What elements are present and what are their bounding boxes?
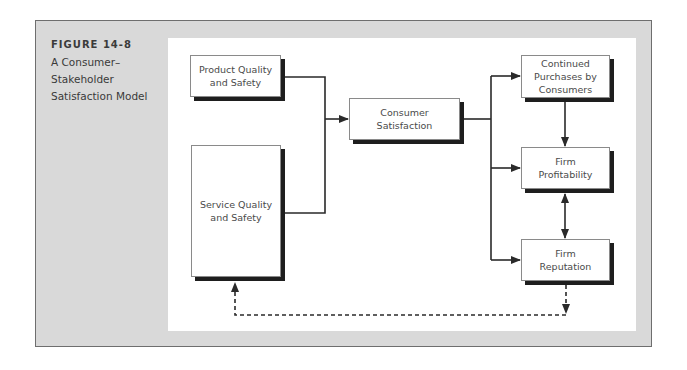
node-label: Service Quality and Safety	[200, 198, 272, 224]
figure-title-line: Satisfaction Model	[51, 88, 163, 105]
node-product-quality: Product Quality and Safety	[190, 55, 281, 97]
node-label: Consumer Satisfaction	[377, 106, 433, 132]
figure-caption: FIGURE 14-8 A Consumer– Stakeholder Sati…	[51, 38, 163, 105]
node-label: Continued Purchases by Consumers	[534, 57, 597, 96]
node-label: Firm Profitability	[539, 155, 593, 181]
node-label: Firm Reputation	[540, 247, 592, 273]
node-service-quality: Service Quality and Safety	[191, 145, 281, 277]
node-label: Product Quality and Safety	[199, 63, 272, 89]
figure-title: A Consumer– Stakeholder Satisfaction Mod…	[51, 54, 163, 105]
node-firm-profitability: Firm Profitability	[521, 147, 610, 189]
figure-title-line: Stakeholder	[51, 71, 163, 88]
figure-title-line: A Consumer–	[51, 54, 163, 71]
node-continued-purchases: Continued Purchases by Consumers	[521, 55, 610, 98]
node-firm-reputation: Firm Reputation	[521, 239, 610, 281]
figure-number: FIGURE 14-8	[51, 38, 163, 52]
node-consumer-satisfaction: Consumer Satisfaction	[349, 98, 460, 140]
